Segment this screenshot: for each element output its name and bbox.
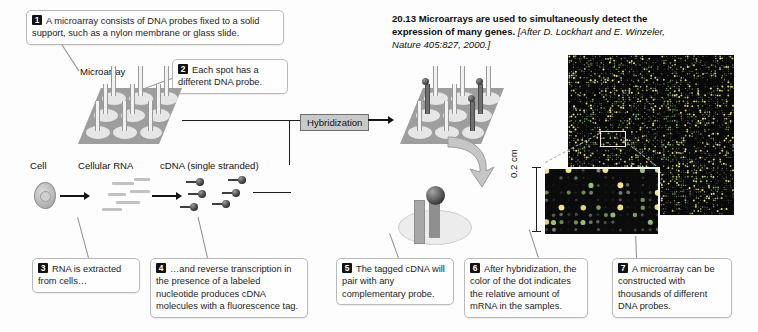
callout-6: 6After hybridization, the color of the d…	[464, 258, 588, 318]
dna-probe	[148, 101, 153, 131]
scale-bar-tick-bottom	[532, 231, 541, 232]
dna-probe	[486, 66, 491, 96]
dna-probe	[95, 101, 100, 131]
callout-7: 7A microarray can be constructed with th…	[612, 258, 732, 318]
cdna-label: cDNA (single stranded)	[160, 160, 259, 171]
scale-bar	[532, 167, 540, 232]
callout-6-text: After hybridization, the color of the do…	[470, 264, 577, 311]
callout-2: 2Each spot has a different DNA probe.	[172, 59, 288, 94]
leader-line-4	[198, 217, 208, 258]
callout-2-text: Each spot has a different DNA probe.	[178, 65, 262, 87]
figure-number: 20.13	[392, 13, 416, 24]
figure-microarray-workflow: 20.13 Microarrays are used to simultaneo…	[0, 0, 758, 332]
callout-4-text: …and reverse transcription in the presen…	[156, 264, 298, 311]
microarray-slab-left	[78, 88, 182, 144]
hybridization-label: Hybridization	[300, 114, 369, 131]
leader-line-1	[61, 44, 79, 71]
callout-7-number: 7	[618, 263, 628, 273]
nucleus	[40, 191, 51, 202]
callout-3: 3RNA is extracted from cells…	[32, 258, 140, 293]
arrow-head	[84, 192, 90, 200]
rna-strand	[112, 182, 134, 185]
fluorescence-tag	[426, 186, 445, 205]
scale-bar-line	[536, 167, 537, 232]
arrow-rna-to-cdna	[152, 195, 178, 197]
scale-bar-label: 0.2 cm	[508, 149, 519, 178]
microarray-label: Microarray	[80, 66, 125, 77]
cellular-rna-label: Cellular RNA	[78, 160, 133, 171]
rna-strand	[102, 208, 122, 211]
connector-cdna-to-hyb	[253, 192, 291, 193]
figure-credit-rest: Nature 405:827, 2000.]	[392, 39, 490, 50]
dna-probe	[156, 84, 161, 114]
dna-probe-bound	[478, 84, 483, 114]
dna-probe	[103, 84, 108, 114]
cdna-tag	[238, 176, 246, 184]
figure-title: 20.13 Microarrays are used to simultaneo…	[392, 12, 692, 52]
dna-probe	[433, 66, 438, 96]
leader-line-5	[389, 233, 399, 258]
arrow-head	[176, 192, 182, 200]
callout-3-text: RNA is extracted from cells…	[38, 264, 121, 286]
dna-probe-bound	[470, 101, 475, 131]
callout-3-number: 3	[38, 263, 48, 273]
leader-line-6	[529, 229, 539, 258]
microarray-photo-inset	[543, 167, 660, 236]
figure-credit-italic: [After D. Lockhart and E. Winzeler,	[518, 26, 665, 37]
dna-probe	[130, 84, 135, 114]
connector-slab-to-hybridization	[182, 120, 300, 121]
microarray-photo-inset-canvas	[545, 169, 658, 234]
cdna-tag	[232, 189, 240, 197]
callout-1-number: 1	[32, 15, 42, 25]
callout-4-number: 4	[156, 263, 166, 273]
dna-probe	[122, 101, 127, 131]
rna-strand	[116, 201, 140, 204]
cell-label: Cell	[30, 160, 47, 171]
cell-illustration	[34, 182, 56, 209]
cdna-tag	[196, 178, 204, 186]
scale-bar-tick-top	[532, 167, 541, 168]
callout-1-text: A microarray consists of DNA probes fixe…	[32, 16, 259, 38]
callout-1: 1A microarray consists of DNA probes fix…	[26, 10, 284, 45]
cdna-tag	[190, 203, 198, 211]
probe-strand	[414, 200, 425, 244]
dna-probe	[452, 84, 457, 114]
tagged-cdna-ball	[476, 78, 483, 85]
dna-probe	[164, 66, 169, 96]
rna-strand	[134, 178, 150, 181]
callout-2-number: 2	[178, 64, 188, 74]
callout-6-number: 6	[470, 263, 480, 273]
rna-strand	[130, 190, 150, 193]
connector-vertical	[289, 120, 290, 165]
cdna-tag	[198, 190, 206, 198]
hybridization-arrow-line	[368, 119, 390, 121]
magnify-arrow-icon	[442, 133, 502, 193]
callout-5-number: 5	[342, 263, 352, 273]
dna-probe	[460, 66, 465, 96]
callout-7-text: A microarray can be constructed with tho…	[618, 264, 715, 311]
callout-5-text: The tagged cDNA will pair with any compl…	[342, 264, 445, 299]
dna-probe	[444, 101, 449, 131]
cdna-tag	[222, 200, 230, 208]
inset-region-marker	[600, 131, 626, 147]
leader-line-3	[77, 217, 89, 258]
dna-probe	[138, 66, 143, 96]
tagged-cdna-ball	[422, 78, 429, 85]
callout-4: 4…and reverse transcription in the prese…	[150, 258, 308, 318]
dna-probe	[417, 101, 422, 131]
rna-strand	[108, 193, 126, 196]
dna-probe	[111, 66, 116, 96]
dna-probe-bound	[425, 84, 430, 114]
hybridization-arrow-head	[388, 116, 394, 124]
callout-5: 5The tagged cDNA will pair with any comp…	[336, 258, 454, 305]
tagged-cdna-ball	[468, 95, 475, 102]
arrow-cell-to-rna	[60, 195, 86, 197]
